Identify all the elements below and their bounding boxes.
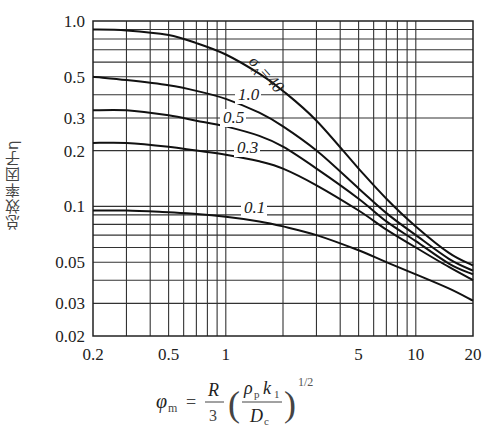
y-tick-label: 0.5 bbox=[64, 68, 85, 87]
x-tick-label: 5 bbox=[354, 345, 363, 364]
equals-sign: = bbox=[186, 392, 196, 412]
D-symbol: D bbox=[249, 406, 263, 426]
x-tick-label: 10 bbox=[407, 345, 424, 364]
x-tick-label: 20 bbox=[465, 345, 482, 364]
chart: σA=401.00.50.30.1 0.20.5151020 1.00.50.3… bbox=[0, 0, 500, 372]
x-tick-label: 0.2 bbox=[82, 345, 103, 364]
curve-label: 0.3 bbox=[237, 138, 258, 157]
phi-subscript: m bbox=[168, 401, 178, 415]
D-subscript: c bbox=[264, 415, 269, 427]
left-paren: ( bbox=[228, 384, 240, 424]
k-symbol: k bbox=[263, 378, 272, 398]
y-axis-label: 总效率因子η bbox=[2, 110, 32, 260]
y-tick-label: 0.1 bbox=[64, 197, 85, 216]
x-tick-label: 1 bbox=[222, 345, 231, 364]
frac-denominator: 3 bbox=[209, 407, 217, 424]
y-tick-label: 1.0 bbox=[64, 12, 85, 31]
rho-symbol: ρ bbox=[243, 378, 253, 398]
y-tick-label: 0.3 bbox=[64, 109, 85, 128]
phi-symbol: φ bbox=[156, 390, 167, 413]
x-tick-label: 0.5 bbox=[158, 345, 179, 364]
rho-subscript: p bbox=[254, 388, 260, 400]
curve-label: 0.5 bbox=[223, 108, 244, 127]
y-tick-label: 0.02 bbox=[55, 327, 85, 346]
k-subscript: 1 bbox=[274, 388, 280, 400]
grid-lines bbox=[93, 21, 473, 336]
y-tick-label: 0.2 bbox=[64, 142, 85, 161]
curve-label: 1.0 bbox=[238, 85, 260, 104]
right-paren: ) bbox=[284, 384, 296, 424]
curve-label: 0.1 bbox=[244, 198, 265, 217]
y-tick-label: 0.05 bbox=[55, 253, 85, 272]
x-tick-labels: 0.20.5151020 bbox=[82, 345, 481, 364]
x-axis-label: φ m = R 3 ( ρ p k 1 D c ) 1/2 bbox=[150, 372, 350, 432]
y-tick-labels: 1.00.50.30.20.10.050.030.02 bbox=[55, 12, 85, 346]
y-tick-label: 0.03 bbox=[55, 294, 85, 313]
exponent: 1/2 bbox=[298, 375, 313, 389]
frac-numerator: R bbox=[207, 380, 219, 400]
